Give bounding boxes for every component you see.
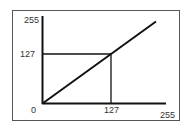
origin-label: 0 <box>31 105 36 115</box>
x-mid-label: 127 <box>104 105 119 115</box>
y-max-label: 255 <box>24 15 39 25</box>
x-max-label: 255 <box>160 110 175 120</box>
y-mid-label: 127 <box>20 49 35 59</box>
identity-line <box>43 21 157 103</box>
diagram: 255 127 0 127 255 <box>0 0 188 130</box>
